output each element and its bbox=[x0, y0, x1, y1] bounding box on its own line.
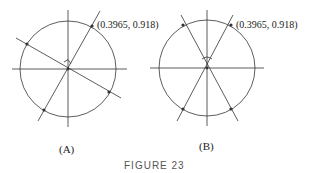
point-label-a: (0.3965, 0.918) bbox=[97, 19, 159, 31]
figure-canvas: (0.3965, 0.918) (A) (0.3965, 0.918) (B) … bbox=[0, 0, 318, 173]
point-a-2 bbox=[25, 42, 28, 45]
point-b-2 bbox=[181, 23, 184, 26]
panel-label-a: (A) bbox=[59, 143, 75, 156]
point-a-1 bbox=[90, 24, 93, 27]
point-b-3 bbox=[181, 107, 184, 110]
diagonal-line-a bbox=[38, 11, 100, 121]
point-b-4 bbox=[229, 107, 232, 110]
origin-b bbox=[206, 67, 209, 70]
origin-a bbox=[67, 68, 70, 71]
point-a-4 bbox=[42, 108, 45, 111]
panel-label-b: (B) bbox=[199, 140, 214, 153]
right-angle-marker-a bbox=[64, 60, 71, 65]
point-label-b: (0.3965, 0.918) bbox=[236, 19, 298, 31]
figure-caption: FIGURE 23 bbox=[124, 160, 185, 171]
point-b-1 bbox=[229, 23, 232, 26]
point-a-3 bbox=[107, 90, 110, 93]
